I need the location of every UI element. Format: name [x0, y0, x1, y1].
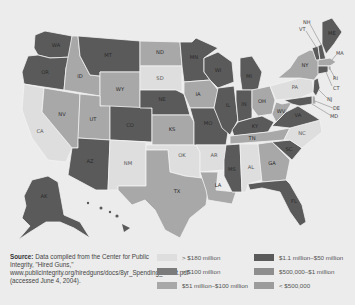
label-or: OR [41, 69, 49, 75]
label-ks: KS [169, 126, 176, 132]
label-mt: MT [104, 52, 112, 58]
label-wv: WV [277, 108, 286, 114]
label-ok: OK [178, 152, 186, 158]
label-sc: SC [286, 146, 293, 152]
state-hi [87, 202, 130, 232]
callout-nh: NH [303, 19, 311, 25]
label-nv: NV [58, 111, 66, 117]
legend-item-gt100: > $100 million [157, 268, 220, 275]
legend: > $180 million > $100 million $51 millio… [157, 254, 352, 299]
legend-label: $51 million–$100 million [182, 282, 248, 289]
label-sd: SD [156, 75, 163, 81]
legend-label: > $180 million [182, 254, 220, 261]
label-nm: NM [124, 160, 132, 166]
legend-swatch [254, 268, 274, 275]
legend-item-1-50: $1.1 million–$50 million [254, 254, 343, 261]
state-ak [18, 176, 90, 240]
state-ia [184, 80, 218, 108]
legend-item-500k-1m: $500,000–$1 million [254, 268, 334, 275]
legend-swatch [254, 282, 274, 289]
label-pa: PA [292, 84, 299, 90]
legend-item-51-100: $51 million–$100 million [157, 282, 248, 289]
state-ri [328, 66, 331, 70]
callout-nj: NJ [327, 96, 332, 102]
label-ia: IA [195, 91, 201, 97]
label-nd: ND [156, 49, 164, 55]
label-tx: TX [173, 188, 181, 194]
label-tn: TN [247, 135, 255, 141]
label-ak: AK [41, 193, 49, 199]
state-ny [278, 50, 320, 80]
label-mi: MI [246, 73, 252, 79]
label-ne: NE [158, 96, 165, 102]
legend-label: < $500,000 [279, 282, 310, 289]
label-wa: WA [52, 42, 61, 48]
label-la: LA [215, 182, 222, 188]
label-mn: MN [190, 54, 198, 60]
legend-label: $500,000–$1 million [279, 268, 334, 275]
state-ma [318, 58, 336, 66]
label-az: AZ [86, 158, 94, 164]
label-il: IL [226, 102, 231, 108]
state-fl [248, 180, 306, 226]
label-al: AL [248, 164, 255, 170]
source-label: Source: [10, 253, 33, 260]
label-oh: OH [258, 98, 266, 104]
us-choropleth-map: WA OR CA ID NV MT WY UT AZ CO NM ND SD N… [0, 0, 355, 245]
label-ny: NY [301, 62, 309, 68]
legend-swatch [157, 254, 177, 261]
label-mo: MO [204, 120, 213, 126]
callout-md: MD [330, 113, 338, 119]
label-me: ME [328, 30, 336, 36]
legend-swatch [157, 268, 177, 275]
label-ms: MS [228, 166, 236, 172]
source-note: Source: Data compiled from the Center fo… [10, 253, 150, 285]
label-nc: NC [298, 130, 306, 136]
legend-label: $1.1 million–$50 million [279, 254, 343, 261]
label-ca: CA [36, 128, 44, 134]
callout-ri: RI [333, 75, 338, 81]
legend-item-lt500k: < $500,000 [254, 282, 310, 289]
legend-swatch [254, 254, 274, 261]
label-co: CO [126, 122, 134, 128]
state-de [312, 96, 316, 104]
state-nj [313, 78, 320, 96]
label-ky: KY [252, 123, 259, 129]
label-ut: UT [90, 116, 98, 122]
callout-ct: CT [333, 85, 340, 91]
label-ar: AR [210, 152, 218, 158]
callout-de: DE [333, 105, 340, 111]
label-fl: FL [291, 198, 297, 204]
callout-ma: MA [336, 50, 344, 56]
label-va: VA [295, 112, 302, 118]
label-in: IN [241, 101, 247, 107]
legend-swatch [157, 282, 177, 289]
label-wy: WY [116, 86, 125, 92]
label-ga: GA [268, 160, 276, 166]
label-wi: WI [215, 67, 222, 73]
legend-item-gt180: > $180 million [157, 254, 220, 261]
label-id: ID [77, 73, 83, 79]
state-ar [196, 145, 226, 172]
callout-vt: VT [299, 26, 306, 32]
legend-label: > $100 million [182, 268, 220, 275]
